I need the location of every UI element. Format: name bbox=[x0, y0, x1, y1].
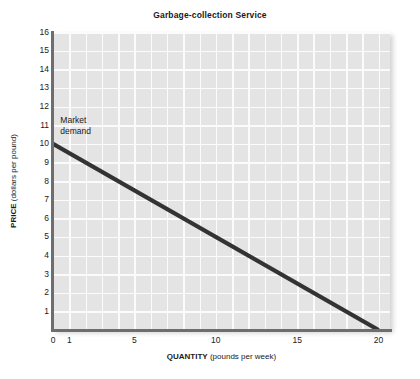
x-axis-tick-labels: 015101520 bbox=[0, 0, 420, 379]
x-tick-label: 20 bbox=[364, 336, 394, 345]
market-demand-annotation: Marketdemand bbox=[60, 115, 91, 137]
x-tick-label: 1 bbox=[54, 336, 84, 345]
annotation-line: demand bbox=[60, 126, 91, 137]
x-tick-label: 10 bbox=[201, 336, 231, 345]
annotation-line: Market bbox=[60, 115, 91, 126]
x-tick-label: 5 bbox=[119, 336, 149, 345]
x-tick-label: 15 bbox=[282, 336, 312, 345]
x-axis-title-bold: QUANTITY bbox=[167, 352, 208, 361]
x-axis-title-rest: (pounds per week) bbox=[208, 352, 276, 361]
chart-figure: Garbage-collection Service PRICE (dollar… bbox=[0, 0, 420, 379]
x-axis-title: QUANTITY (pounds per week) bbox=[53, 352, 390, 361]
